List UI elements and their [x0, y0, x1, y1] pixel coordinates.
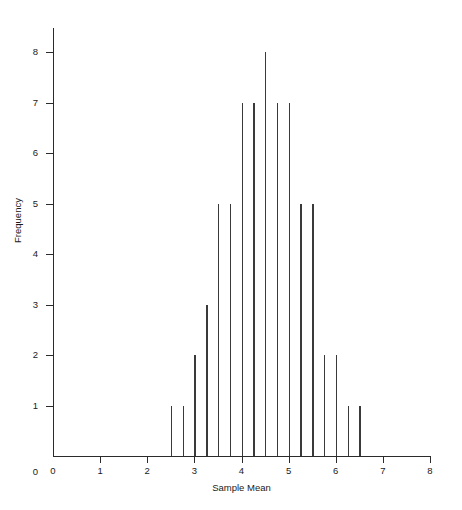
x-tick-6 — [336, 456, 337, 463]
y-tick-6 — [46, 153, 53, 154]
y-tick-label-8: 8 — [16, 47, 38, 57]
y-tick-label-3: 3 — [16, 300, 38, 310]
bar — [242, 103, 243, 457]
bar — [183, 406, 184, 457]
x-tick-1 — [100, 456, 101, 463]
y-tick-label-2: 2 — [16, 350, 38, 360]
x-tick-4 — [242, 456, 243, 463]
x-tick-label-3: 3 — [182, 466, 206, 476]
x-tick-label-8: 8 — [418, 466, 442, 476]
y-tick-label-1: 1 — [16, 401, 38, 411]
x-tick-5 — [289, 456, 290, 463]
x-tick-label-4: 4 — [230, 466, 254, 476]
bar — [265, 52, 266, 456]
x-tick-2 — [147, 456, 148, 463]
y-tick-8 — [46, 52, 53, 53]
axis-origin-label: 0 — [16, 467, 38, 477]
bar — [230, 204, 231, 457]
x-tick-label-0: 0 — [41, 466, 65, 476]
x-tick-label-7: 7 — [371, 466, 395, 476]
x-tick-label-6: 6 — [324, 466, 348, 476]
bar — [359, 406, 360, 457]
y-axis-label: Frequency — [12, 186, 23, 256]
y-tick-label-7: 7 — [16, 98, 38, 108]
y-tick-label-6: 6 — [16, 148, 38, 158]
bar — [218, 204, 219, 457]
bar — [171, 406, 172, 457]
y-tick-1 — [46, 406, 53, 407]
y-tick-2 — [46, 355, 53, 356]
y-axis-line — [53, 28, 54, 457]
bar — [336, 355, 337, 456]
x-tick-8 — [430, 456, 431, 463]
x-tick-7 — [383, 456, 384, 463]
y-tick-7 — [46, 103, 53, 104]
frequency-distribution-chart: 123456780 012345678 Sample Mean Frequenc… — [0, 0, 462, 510]
bar — [312, 204, 313, 457]
bar — [324, 355, 325, 456]
bar — [277, 103, 278, 457]
x-tick-label-5: 5 — [277, 466, 301, 476]
y-tick-3 — [46, 305, 53, 306]
x-tick-label-1: 1 — [88, 466, 112, 476]
x-axis-label: Sample Mean — [53, 482, 430, 493]
bar — [289, 103, 290, 457]
y-tick-5 — [46, 204, 53, 205]
bar — [206, 305, 207, 457]
bar — [348, 406, 349, 457]
plot-area: 123456780 012345678 Sample Mean Frequenc… — [0, 0, 462, 510]
bar — [194, 355, 195, 456]
x-tick-3 — [194, 456, 195, 463]
y-tick-4 — [46, 254, 53, 255]
bar — [300, 204, 301, 457]
bar — [253, 103, 254, 457]
x-tick-label-2: 2 — [135, 466, 159, 476]
